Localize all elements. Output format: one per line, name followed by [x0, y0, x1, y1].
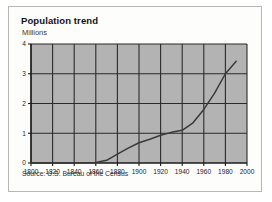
- x-tick-label: 1940: [175, 168, 190, 175]
- chart-plot-area: 0123418001820184018601880190019201940196…: [9, 7, 263, 193]
- source-note: Source: U.S. Bureau of the Census: [22, 170, 128, 177]
- x-tick-label: 1920: [153, 168, 168, 175]
- y-tick-label: 3: [22, 70, 26, 77]
- y-tick-label: 0: [22, 159, 26, 166]
- x-tick-label: 1900: [132, 168, 147, 175]
- y-tick-label: 2: [22, 100, 26, 107]
- x-tick-label: 2000: [240, 168, 255, 175]
- x-tick-label: 1960: [196, 168, 211, 175]
- figure-card: Population trend Millions 01234180018201…: [8, 6, 262, 192]
- y-tick-label: 4: [22, 40, 26, 47]
- line-chart-svg: 0123418001820184018601880190019201940196…: [9, 7, 263, 193]
- y-tick-label: 1: [22, 130, 26, 137]
- x-tick-label: 1980: [218, 168, 233, 175]
